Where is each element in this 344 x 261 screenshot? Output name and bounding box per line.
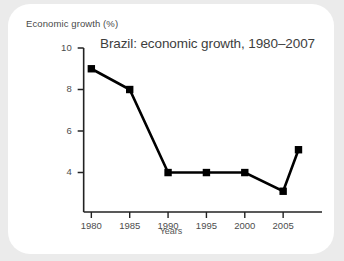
data-point-marker bbox=[126, 86, 133, 93]
data-point-marker bbox=[203, 169, 210, 176]
data-point-marker bbox=[88, 65, 95, 72]
x-axis-ticks bbox=[91, 212, 283, 218]
data-point-marker bbox=[279, 188, 286, 195]
y-axis-ticks bbox=[78, 48, 84, 173]
data-series-line bbox=[91, 69, 298, 191]
x-axis-title: Years bbox=[8, 226, 334, 236]
data-point-marker bbox=[295, 146, 302, 153]
data-point-marker bbox=[241, 169, 248, 176]
figure-card: Economic growth (%) Brazil: economic gro… bbox=[8, 4, 334, 254]
data-point-marker bbox=[164, 169, 171, 176]
plot-area bbox=[8, 4, 334, 254]
economic-growth-line-chart: Economic growth (%) Brazil: economic gro… bbox=[8, 4, 334, 254]
